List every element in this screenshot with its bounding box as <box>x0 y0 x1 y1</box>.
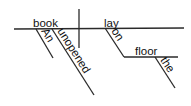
sentence-diagram: book lay An unopened on floor the <box>0 0 191 106</box>
object-word: floor <box>135 45 158 57</box>
modifier-word-unopened: unopened <box>55 26 93 76</box>
